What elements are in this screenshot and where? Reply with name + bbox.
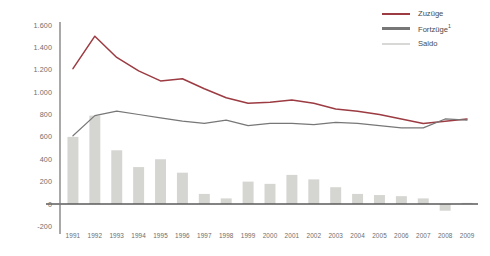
y-tick-label: 200 bbox=[6, 177, 52, 186]
saldo-bar bbox=[352, 194, 363, 204]
series-line-fortzge bbox=[73, 111, 467, 136]
y-tick-label: 1.200 bbox=[6, 65, 52, 74]
x-tick-label: 2009 bbox=[453, 232, 481, 239]
y-tick-label: -200 bbox=[6, 222, 52, 231]
saldo-bar bbox=[111, 150, 122, 204]
saldo-bar bbox=[374, 195, 385, 204]
y-tick-label: 800 bbox=[6, 110, 52, 119]
saldo-bar bbox=[199, 194, 210, 204]
y-tick-label: 1.000 bbox=[6, 88, 52, 97]
saldo-bar bbox=[243, 182, 254, 204]
plot-area bbox=[0, 0, 490, 256]
saldo-bar bbox=[89, 116, 100, 204]
saldo-bar bbox=[440, 204, 451, 211]
saldo-bar bbox=[286, 175, 297, 204]
saldo-bar bbox=[67, 137, 78, 204]
series-line-zuzge bbox=[73, 36, 467, 123]
y-tick-label: 600 bbox=[6, 132, 52, 141]
saldo-bar bbox=[133, 167, 144, 204]
saldo-bar bbox=[418, 198, 429, 204]
saldo-bars bbox=[67, 116, 472, 211]
y-tick-label: 1.600 bbox=[6, 21, 52, 30]
saldo-bar bbox=[155, 159, 166, 204]
saldo-bar bbox=[177, 173, 188, 204]
saldo-bar bbox=[265, 184, 276, 204]
saldo-bar bbox=[308, 179, 319, 204]
migration-chart: Zuzüge Fortzüge1 Saldo 1.6001.4001.2001.… bbox=[0, 0, 490, 256]
saldo-bar bbox=[330, 187, 341, 204]
saldo-bar bbox=[396, 196, 407, 204]
y-tick-label: 0 bbox=[6, 200, 52, 209]
y-tick-label: 1.400 bbox=[6, 43, 52, 52]
y-tick-label: 400 bbox=[6, 155, 52, 164]
saldo-bar bbox=[221, 198, 232, 204]
